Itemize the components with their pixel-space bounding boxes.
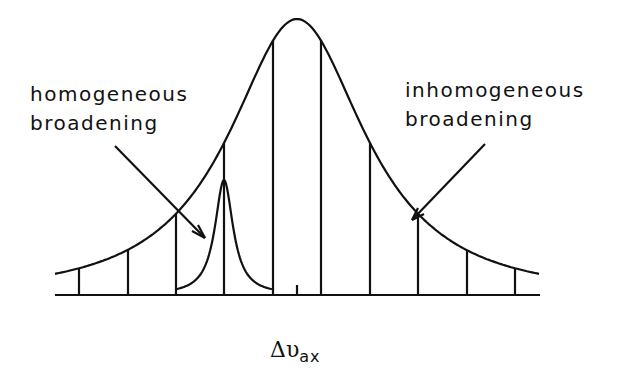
inhomogeneous-envelope-curve bbox=[55, 19, 539, 274]
broadening-diagram bbox=[0, 0, 622, 373]
homogeneous-arrow-line bbox=[115, 146, 205, 238]
inhomogeneous-arrow-line bbox=[412, 144, 485, 220]
